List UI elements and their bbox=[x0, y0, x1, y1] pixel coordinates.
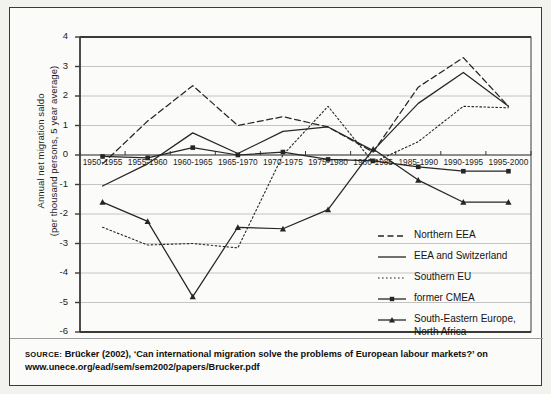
y-axis-tick-label: -1 bbox=[42, 178, 68, 189]
legend-swatch-icon bbox=[377, 250, 407, 263]
source-line2: www.unece.org/ead/sem/sem2002/papers/Bru… bbox=[25, 362, 260, 372]
y-axis-tick-label: 4 bbox=[42, 30, 68, 41]
source-kicker: SOURCE: bbox=[25, 350, 62, 359]
series-marker-square bbox=[281, 150, 286, 155]
legend-swatch-icon bbox=[377, 313, 407, 326]
source-note: SOURCE: Brücker (2002), ‘Can internation… bbox=[25, 348, 530, 374]
legend-label: South-Eastern Europe,North Africa bbox=[414, 313, 516, 338]
series-marker-square bbox=[506, 169, 511, 174]
series-marker-square bbox=[190, 145, 195, 150]
series-line-0 bbox=[103, 58, 509, 164]
series-line-2 bbox=[103, 106, 509, 248]
source-line1: Brücker (2002), ‘Can international migra… bbox=[65, 349, 488, 359]
y-axis-tick-label: 0 bbox=[42, 148, 68, 159]
series-marker-triangle bbox=[145, 218, 151, 224]
y-axis-tick-label: -5 bbox=[42, 296, 68, 307]
figure-container: Annual net migration saldo (per thousand… bbox=[0, 0, 551, 394]
legend-item-1[interactable]: EEA and Switzerland bbox=[377, 250, 537, 263]
legend-label-line1: South-Eastern Europe, bbox=[414, 313, 516, 324]
y-axis-tick-label: -2 bbox=[42, 207, 68, 218]
x-axis-tick-label: 1995-2000 bbox=[482, 157, 534, 167]
y-axis-tick-label: -4 bbox=[42, 266, 68, 277]
legend-label: Southern EU bbox=[414, 271, 471, 284]
chart-legend: Northern EEAEEA and SwitzerlandSouthern … bbox=[377, 229, 537, 346]
source-divider bbox=[10, 338, 543, 339]
chart-frame: Annual net migration saldo (per thousand… bbox=[9, 7, 542, 386]
legend-swatch-icon bbox=[377, 292, 407, 305]
legend-label: Northern EEA bbox=[414, 229, 476, 242]
legend-label: EEA and Switzerland bbox=[414, 250, 507, 263]
legend-label: former CMEA bbox=[414, 292, 475, 305]
series-marker-triangle bbox=[99, 199, 105, 205]
legend-swatch-icon bbox=[377, 229, 407, 242]
y-axis-tick-label: 3 bbox=[42, 60, 68, 71]
y-axis-tick-label: 2 bbox=[42, 89, 68, 100]
legend-swatch-icon bbox=[377, 271, 407, 284]
legend-item-2[interactable]: Southern EU bbox=[377, 271, 537, 284]
y-axis-tick-label: -3 bbox=[42, 237, 68, 248]
legend-item-3[interactable]: former CMEA bbox=[377, 292, 537, 305]
series-marker-square bbox=[461, 169, 466, 174]
legend-item-0[interactable]: Northern EEA bbox=[377, 229, 537, 242]
series-line-1 bbox=[103, 72, 509, 186]
legend-label-line2: North Africa bbox=[414, 326, 466, 337]
y-axis-tick-label: -6 bbox=[42, 325, 68, 336]
y-axis-tick-label: 1 bbox=[42, 119, 68, 130]
legend-item-4[interactable]: South-Eastern Europe,North Africa bbox=[377, 313, 537, 338]
